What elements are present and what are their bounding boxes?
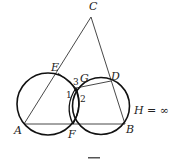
label-e: E	[50, 61, 59, 74]
label-f: F	[67, 128, 76, 141]
label-c: C	[89, 0, 98, 13]
label-h: H = ∞	[133, 104, 169, 117]
angle-label-3: 3	[73, 77, 79, 87]
label-g: G	[80, 72, 89, 85]
label-d: D	[110, 70, 120, 83]
caption-partial	[88, 157, 100, 159]
label-a: A	[13, 124, 22, 137]
circle-right	[73, 78, 130, 135]
label-b: B	[125, 123, 134, 136]
side-bc	[91, 17, 125, 124]
angle-label-1: 1	[66, 90, 72, 100]
geometry-figure: C E G D A F B H = ∞ 3 1 2	[0, 0, 176, 163]
angle-label-2: 2	[80, 94, 86, 104]
